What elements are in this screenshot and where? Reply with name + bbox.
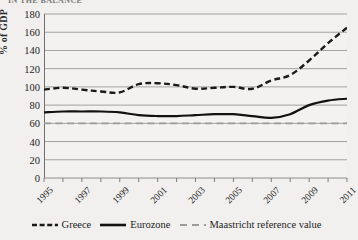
y-tick-160: 160 <box>10 27 40 38</box>
y-tick-100: 100 <box>10 81 40 92</box>
y-tick-60: 60 <box>10 118 40 129</box>
legend-swatch-dashed-icon <box>32 221 58 229</box>
chart-legend: GreeceEurozoneMaastricht reference value <box>0 219 353 230</box>
plot-area <box>44 14 347 178</box>
x-tick-2005: 2005 <box>219 185 244 210</box>
y-tick-120: 120 <box>10 63 40 74</box>
legend-label: Greece <box>62 219 92 230</box>
legend-item-eurozone[interactable]: Eurozone <box>100 219 170 230</box>
legend-item-maastricht[interactable]: Maastricht reference value <box>180 219 322 230</box>
y-tick-80: 80 <box>10 100 40 111</box>
legend-swatch-long-dashed-icon <box>180 221 206 229</box>
data-series-layer <box>44 14 347 178</box>
x-tick-2009: 2009 <box>295 185 320 210</box>
y-tick-40: 40 <box>10 136 40 147</box>
x-tick-2003: 2003 <box>181 185 206 210</box>
y-tick-20: 20 <box>10 154 40 165</box>
y-axis-title: % of GDP <box>0 0 9 72</box>
series-line-eurozone <box>44 99 347 118</box>
clipped-header-text: IN THE BALANCE <box>8 0 82 5</box>
y-tick-0: 0 <box>10 173 40 184</box>
x-tick-2001: 2001 <box>143 185 168 210</box>
x-tick-2011: 2011 <box>333 185 358 210</box>
series-line-greece <box>44 28 347 93</box>
y-tick-180: 180 <box>10 9 40 20</box>
x-tick-1999: 1999 <box>105 185 130 210</box>
y-tick-140: 140 <box>10 45 40 56</box>
x-tick-2007: 2007 <box>257 185 282 210</box>
legend-swatch-solid-icon <box>100 221 126 229</box>
legend-label: Eurozone <box>130 219 170 230</box>
legend-item-greece[interactable]: Greece <box>32 219 92 230</box>
x-tick-1997: 1997 <box>67 185 92 210</box>
x-tick-1995: 1995 <box>30 185 55 210</box>
legend-label: Maastricht reference value <box>210 219 322 230</box>
